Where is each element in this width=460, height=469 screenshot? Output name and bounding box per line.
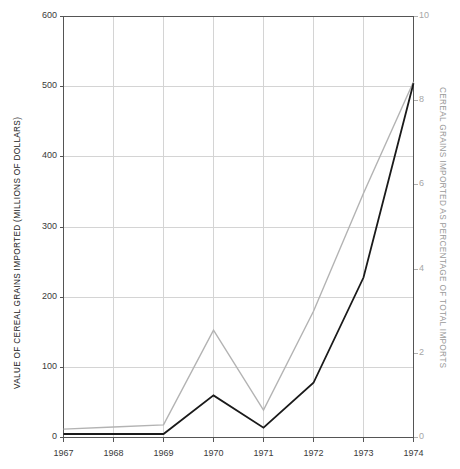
y-tick-label-left: 400 (27, 150, 57, 160)
x-tick-label: 1968 (94, 448, 134, 458)
y-tick-label-right: 4 (419, 263, 445, 273)
x-tick-label: 1971 (244, 448, 284, 458)
plot-area (0, 0, 460, 469)
y-tick-label-left: 600 (27, 10, 57, 20)
x-tick-label: 1973 (344, 448, 384, 458)
y-tick-label-left: 300 (27, 221, 57, 231)
y-tick-label-right: 2 (419, 347, 445, 357)
series-line-percentage (64, 82, 414, 429)
y-tick-label-left: 0 (27, 431, 57, 441)
y-tick-label-right: 10 (419, 10, 445, 20)
cereal-grains-import-chart: VALUE OF CEREAL GRAINS IMPORTED (MILLION… (0, 0, 460, 469)
y-tick-label-left: 200 (27, 291, 57, 301)
y-tick-label-left: 500 (27, 80, 57, 90)
y-tick-label-right: 6 (419, 178, 445, 188)
x-tick-label: 1970 (194, 448, 234, 458)
series-line-value (64, 83, 414, 434)
x-tick-label: 1972 (294, 448, 334, 458)
x-tick-label: 1969 (144, 448, 184, 458)
x-tick-label: 1974 (394, 448, 434, 458)
y-tick-label-right: 8 (419, 94, 445, 104)
gridlines (64, 17, 414, 438)
x-tick-label: 1967 (44, 448, 84, 458)
y-tick-label-left: 100 (27, 361, 57, 371)
data-series (64, 82, 414, 434)
y-tick-label-right: 0 (419, 431, 445, 441)
